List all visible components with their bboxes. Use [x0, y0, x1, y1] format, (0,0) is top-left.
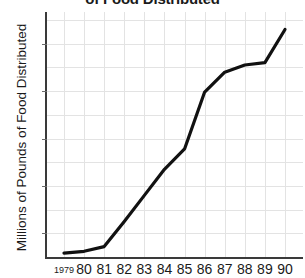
line-chart: of Food Distributed Millions of Pounds o…	[0, 0, 305, 278]
y-axis-title: Millions of Pounds of Food Distributed	[14, 23, 29, 253]
x-tick-label: 90	[265, 261, 305, 277]
chart-title-clip: of Food Distributed	[0, 0, 305, 9]
chart-title: of Food Distributed	[0, 0, 305, 7]
data-line-series	[45, 12, 303, 259]
plot-area	[45, 12, 303, 259]
series-polyline	[64, 29, 285, 253]
